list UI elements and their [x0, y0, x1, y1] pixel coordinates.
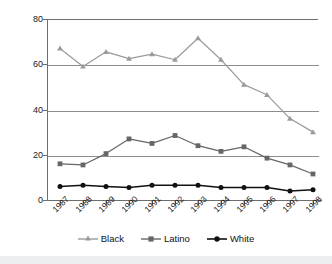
legend-label-latino: Latino: [164, 234, 190, 244]
legend-label-black: Black: [101, 234, 124, 244]
gridline-40: [48, 111, 319, 112]
gridline-60: [48, 65, 319, 66]
legend-entry-black[interactable]: Black: [78, 234, 124, 244]
plot-area: [47, 19, 318, 200]
legend-swatch-white-icon: [207, 234, 227, 244]
legend-entry-white[interactable]: White: [207, 234, 254, 244]
bottom-strip: [0, 256, 332, 264]
y-tick-label-0: 0: [17, 196, 43, 205]
gridline-20: [48, 156, 319, 157]
y-tick-label-40: 40: [17, 106, 43, 115]
legend-label-white: White: [230, 234, 254, 244]
y-tick-label-20: 20: [17, 151, 43, 160]
chart-figure: 80 60 40 20 0 1987 1988 1989 1990 1991 1…: [0, 0, 332, 264]
legend-entry-latino[interactable]: Latino: [141, 234, 190, 244]
y-axis-labels: 80 60 40 20 0: [12, 0, 43, 264]
legend-swatch-black-icon: [78, 234, 98, 244]
legend-swatch-latino-icon: [141, 234, 161, 244]
chart-legend: Black Latino White: [0, 231, 332, 247]
y-tick-label-60: 60: [17, 60, 43, 69]
y-tick-label-80: 80: [17, 15, 43, 24]
